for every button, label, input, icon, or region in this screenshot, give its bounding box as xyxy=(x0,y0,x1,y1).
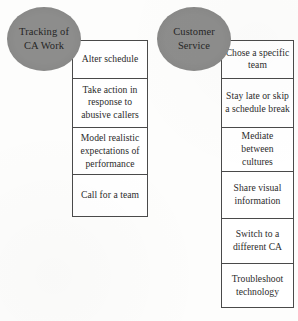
list-item[interactable]: Call for a team xyxy=(73,175,147,216)
list-item[interactable]: Switch to a different CA xyxy=(222,219,293,265)
node-tracking-label: Tracking of CA Work xyxy=(7,25,81,53)
list-tracking-of-ca-work: Alter schedule Take action in response t… xyxy=(72,40,148,217)
list-item-label: Stay late or skip a schedule break xyxy=(225,90,290,116)
list-item[interactable]: Model realistic expectations of performa… xyxy=(73,128,147,175)
list-item-label: Share visual information xyxy=(225,182,290,208)
list-item-label: Switch to a different CA xyxy=(225,228,290,254)
node-service-label: Customer Service xyxy=(157,25,231,53)
list-item[interactable]: Alter schedule xyxy=(73,41,147,79)
list-item[interactable]: Troubleshoot technology xyxy=(222,264,293,307)
list-item-label: Model realistic expectations of performa… xyxy=(76,132,144,171)
list-item-label: Mediate between cultures xyxy=(225,130,290,169)
list-item-label: Take action in response to abusive calle… xyxy=(76,84,144,123)
list-item-label: Alter schedule xyxy=(82,53,138,66)
list-item-label: Chose a specific team xyxy=(225,47,290,73)
list-item-label: Troubleshoot technology xyxy=(225,273,290,299)
list-item[interactable]: Stay late or skip a schedule break xyxy=(222,79,293,129)
list-item[interactable]: Mediate between cultures xyxy=(222,128,293,172)
node-tracking-of-ca-work[interactable]: Tracking of CA Work xyxy=(7,7,81,71)
node-customer-service[interactable]: Customer Service xyxy=(157,7,231,71)
list-item[interactable]: Chose a specific team xyxy=(222,41,293,79)
diagram-canvas: Tracking of CA Work Alter schedule Take … xyxy=(0,0,298,321)
list-item[interactable]: Share visual information xyxy=(222,172,293,219)
list-item[interactable]: Take action in response to abusive calle… xyxy=(73,79,147,128)
list-customer-service: Chose a specific team Stay late or skip … xyxy=(221,40,294,308)
list-item-label: Call for a team xyxy=(81,189,139,202)
